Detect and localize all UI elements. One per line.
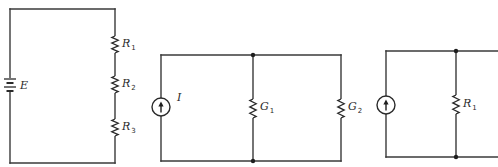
circuit-diagram: ER1R2R3 IG1G2 R1 [0,0,498,167]
component-label: R3 [121,120,136,135]
parallel-circuit-conductance: IG1G2 [152,53,362,163]
parallel-circuit-resistance: R1 [377,49,498,159]
component-label: E [19,79,28,92]
junction-node [251,53,255,57]
junction-node [454,155,458,159]
component-label: R1 [121,37,136,52]
junction-node [251,159,255,163]
battery-icon [2,78,18,92]
component-label: I [176,91,182,104]
component-label: R2 [121,77,136,92]
series-circuit: ER1R2R3 [2,9,136,163]
component-label: R1 [462,97,477,112]
current-source-icon [377,96,395,114]
junction-node [454,49,458,53]
component-label: G2 [348,100,362,115]
current-source-icon [152,98,170,116]
component-label: G1 [260,100,274,115]
